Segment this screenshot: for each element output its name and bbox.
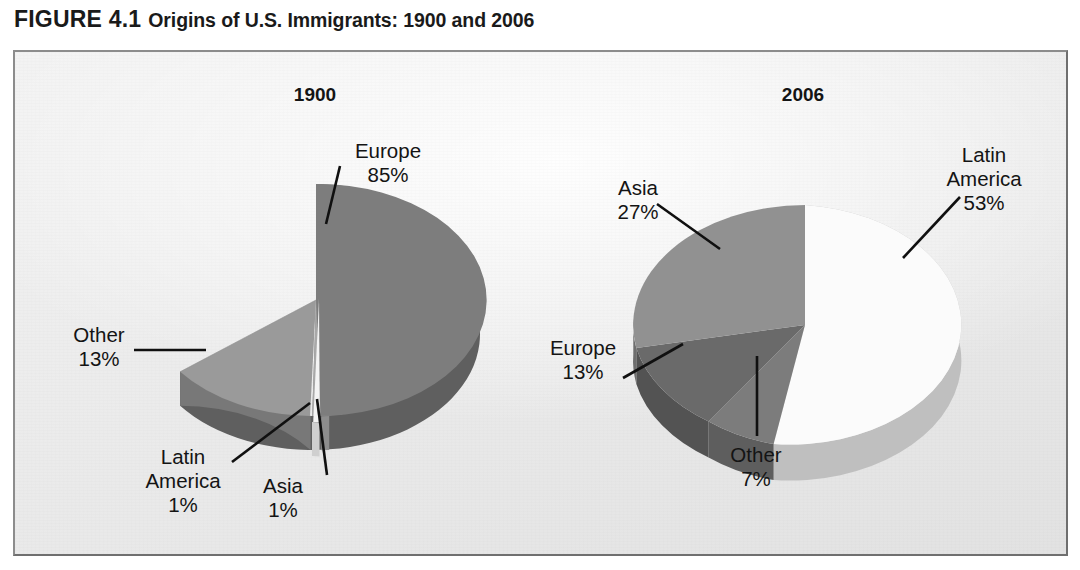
label-1900-asia-percent: 1%	[248, 498, 318, 522]
label-1900-other: Other 13%	[58, 323, 140, 371]
label-1900-latin-america-name2: America	[128, 469, 238, 493]
label-1900-latin-america-percent: 1%	[128, 493, 238, 517]
label-1900-other-percent: 13%	[58, 347, 140, 371]
label-1900-latin-america: Latin America 1%	[128, 445, 238, 517]
figure-caption: FIGURE 4.1Origins of U.S. Immigrants: 19…	[14, 6, 1064, 40]
label-2006-other-percent: 7%	[712, 467, 800, 491]
label-2006-asia: Asia 27%	[598, 176, 678, 224]
label-2006-asia-percent: 27%	[598, 200, 678, 224]
label-1900-latin-america-name: Latin	[128, 445, 238, 469]
label-2006-other: Other 7%	[712, 443, 800, 491]
label-2006-europe-name: Europe	[537, 336, 629, 360]
label-2006-latin-america-name2: America	[925, 167, 1043, 191]
panel-heading-1900: 1900	[230, 84, 400, 106]
label-2006-latin-america-name: Latin	[925, 143, 1043, 167]
figure-title: Origins of U.S. Immigrants: 1900 and 200…	[148, 9, 534, 31]
label-1900-europe: Europe 85%	[338, 139, 438, 187]
label-2006-latin-america-percent: 53%	[925, 191, 1043, 215]
label-2006-latin-america: Latin America 53%	[925, 143, 1043, 215]
label-2006-asia-name: Asia	[598, 176, 678, 200]
label-2006-other-name: Other	[712, 443, 800, 467]
label-1900-europe-name: Europe	[338, 139, 438, 163]
label-1900-asia-name: Asia	[248, 474, 318, 498]
label-1900-other-name: Other	[58, 323, 140, 347]
label-1900-asia: Asia 1%	[248, 474, 318, 522]
label-2006-europe: Europe 13%	[537, 336, 629, 384]
label-1900-europe-percent: 85%	[338, 163, 438, 187]
label-2006-europe-percent: 13%	[537, 360, 629, 384]
figure-root: FIGURE 4.1Origins of U.S. Immigrants: 19…	[0, 0, 1080, 570]
panel-heading-2006: 2006	[718, 84, 888, 106]
figure-number: FIGURE 4.1	[14, 6, 141, 32]
